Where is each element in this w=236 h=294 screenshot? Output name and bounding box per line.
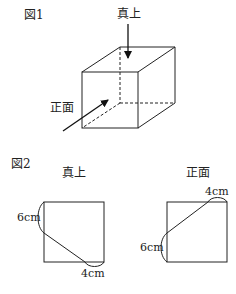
top-view-square (38, 202, 104, 267)
top-view-title: 真上 (62, 167, 86, 179)
front-view-title: 正面 (186, 167, 210, 179)
front-view-top-length: 4cm (205, 186, 229, 197)
top-view-label: 真上 (117, 8, 141, 20)
front-view-side-length: 6cm (140, 242, 164, 253)
diagram-canvas (0, 0, 236, 294)
front-view-square (161, 198, 227, 263)
top-view-side-length: 6cm (17, 212, 41, 223)
figure1-title: 図1 (24, 9, 44, 21)
figure2-title: 図2 (11, 158, 31, 170)
top-view-bottom-length: 4cm (81, 268, 105, 279)
front-view-label: 正面 (50, 102, 74, 114)
cube (82, 47, 175, 128)
